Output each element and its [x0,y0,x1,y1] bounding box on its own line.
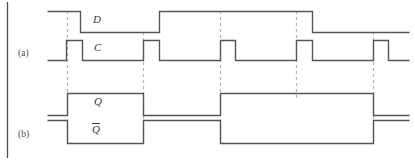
waveform-traces [48,12,410,144]
waveform-canvas [0,0,415,160]
trace-d [48,12,410,33]
signal-label-c: C [94,42,101,53]
qbar-overbar-wrapper: Q [92,123,100,135]
trace-qbar [48,121,410,144]
qbar-letter: Q [92,123,100,135]
group-label-b: (b) [18,130,29,140]
trace-c [48,41,410,61]
timing-diagram-figure: D C Q Q (a) (b) [0,0,415,160]
overbar-rule [92,123,100,124]
signal-label-d: D [93,14,101,25]
signal-label-qbar: Q [92,123,100,135]
group-label-a: (a) [18,49,29,59]
signal-label-q: Q [94,96,102,107]
